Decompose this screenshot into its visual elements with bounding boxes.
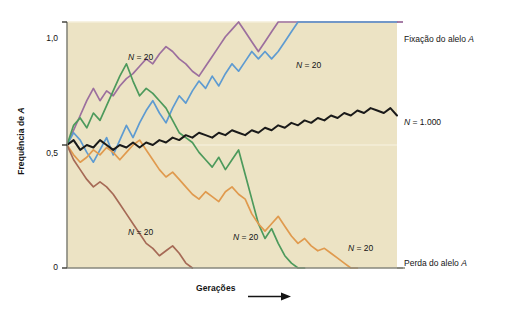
right-arrow-icon xyxy=(248,287,292,296)
annotation-n20-brown: N = 20 xyxy=(128,227,153,237)
side-label-fixacao: Fixação do alelo A xyxy=(404,34,474,44)
annotation-label: N = 20 xyxy=(128,227,153,237)
y-tick-label-0: 0 xyxy=(24,262,58,272)
annotation-label: N = 20 xyxy=(296,60,321,70)
annotation-n20-blue: N = 20 xyxy=(296,60,321,70)
y-tick-label-1.0: 1,0 xyxy=(24,33,58,43)
side-label-fixacao-text: Fixação do alelo A xyxy=(404,34,474,44)
y-tick-label-0.5: 0,5 xyxy=(24,148,58,158)
side-label-n1000-text: N = 1.000 xyxy=(404,117,441,127)
annotation-label: N = 20 xyxy=(233,232,258,242)
annotation-n20-orange: N = 20 xyxy=(348,243,373,253)
annotation-label: N = 20 xyxy=(348,243,373,253)
annotation-label: N = 20 xyxy=(128,52,153,62)
side-label-perda-text: Perda do alelo A xyxy=(404,258,467,268)
side-label-n1000: N = 1.000 xyxy=(404,117,441,127)
figure-root: Frequência de A 1,0 0,5 0 Gerações Fixaç… xyxy=(0,0,505,311)
y-axis-title: Frequência de A xyxy=(16,91,26,191)
annotation-n20-green: N = 20 xyxy=(233,232,258,242)
side-label-perda: Perda do alelo A xyxy=(404,258,467,268)
annotation-n20-purple: N = 20 xyxy=(128,52,153,62)
x-axis-title: Gerações xyxy=(196,283,236,293)
